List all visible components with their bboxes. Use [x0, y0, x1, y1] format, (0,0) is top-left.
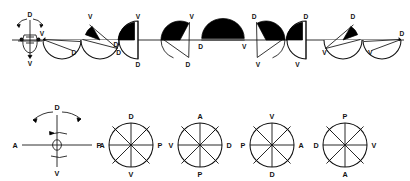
schematic-node-left — [20, 38, 24, 42]
orientation-rose-3 — [250, 123, 294, 167]
step-label-D-side: D — [114, 41, 119, 48]
rotation-diagram-svg: DVVDVDVDDVDDVDVDVDVDVDVAPDPVAADPVVADPPVA… — [0, 0, 410, 181]
rotation-step-7 — [286, 21, 306, 59]
orientation-rose-4 — [323, 123, 367, 167]
step-label-V: V — [368, 49, 373, 56]
step-ray-1 — [189, 22, 190, 57]
step-label-V: V — [40, 30, 45, 37]
step-label-D: D — [198, 43, 203, 50]
schematic-bottom-label-V: V — [28, 60, 33, 67]
schematic-label-A: A — [12, 141, 17, 150]
rotation-step-5 — [201, 18, 244, 40]
schematic-fin-arrowhead — [50, 132, 55, 135]
rotation-arrow-left — [17, 19, 27, 25]
rose-label-bottom: P — [198, 170, 203, 179]
orientation-rose-2 — [178, 123, 222, 167]
rose-label-top: V — [270, 112, 275, 121]
orientation-rose-1 — [109, 123, 153, 167]
step-lower-lobe — [324, 40, 362, 59]
step-black-sector — [257, 21, 285, 40]
rose-label-top: A — [197, 112, 202, 121]
rose-label-right: V — [372, 141, 377, 150]
rose-label-left: V — [169, 141, 174, 150]
rose-label-right: A — [298, 141, 303, 150]
schematic-bottom-arrowhead — [28, 55, 32, 58]
step-black-sector — [161, 21, 189, 40]
step-label-D: D — [350, 13, 355, 20]
rose-label-left: P — [241, 141, 246, 150]
rose-label-top: P — [343, 112, 348, 121]
schematic-fin-bottom — [51, 156, 67, 158]
step-label-D: D — [304, 13, 309, 20]
step-label-D: D — [400, 30, 405, 37]
rotation-arrow-left-head — [17, 24, 20, 27]
step-black-wedge — [85, 27, 100, 40]
rotation-arrow-right-head — [40, 24, 43, 27]
step-label-V: V — [242, 43, 247, 50]
rose-label-left: A — [99, 141, 104, 150]
step-label-V: V — [190, 13, 195, 20]
step-label-V: V — [295, 61, 300, 68]
step-ray-1 — [257, 22, 258, 57]
rotation-arrow-right — [33, 19, 43, 25]
rotation-step-8 — [324, 25, 362, 59]
rose-label-top: D — [128, 112, 133, 121]
rose-label-bottom: D — [269, 170, 274, 179]
step-label-D: D — [136, 61, 141, 68]
schematic-top-label-D: D — [28, 11, 33, 18]
step-label-V: V — [256, 61, 261, 68]
rotation-step-6 — [257, 21, 286, 58]
step-label-D: D — [71, 49, 76, 56]
probe-schematic-top — [17, 19, 43, 59]
step-black-wedge — [343, 27, 358, 40]
rose-label-bottom: A — [342, 170, 347, 179]
step-label-D: D — [252, 13, 257, 20]
step-black-half — [202, 18, 245, 38]
step-label-V: V — [88, 13, 93, 20]
figure-root: DVVDVDVDDVDDVDVDVDVDVDVAPDPVAADPVVADPPVA… — [0, 0, 410, 181]
step-label-D: D — [116, 49, 121, 56]
step-label-V: V — [136, 13, 141, 20]
step-label-V: V — [322, 49, 327, 56]
step-black-sliver — [43, 38, 45, 41]
rose-label-right: D — [226, 141, 231, 150]
step-label-D: D — [186, 61, 191, 68]
schematic-node-right — [37, 38, 41, 42]
rose-label-right: P — [158, 141, 163, 150]
rose-label-bottom: V — [129, 170, 134, 179]
schematic-label-D: D — [54, 103, 59, 112]
rotation-step-4 — [161, 21, 190, 58]
probe-schematic-bottom — [22, 112, 92, 167]
step-black-sliver — [399, 38, 401, 41]
rose-label-left: D — [313, 141, 318, 150]
schematic-label-V: V — [55, 169, 60, 178]
